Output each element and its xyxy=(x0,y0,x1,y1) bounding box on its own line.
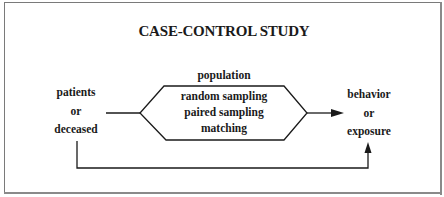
left-node-line-3: deceased xyxy=(54,124,97,136)
left-node-line-2: or xyxy=(71,106,82,118)
right-node-line-3: exposure xyxy=(347,126,391,138)
center-to-right-arrow xyxy=(307,109,344,117)
left-to-right-elbow-arrow xyxy=(77,141,372,168)
center-node-line-1: random sampling xyxy=(181,91,268,103)
right-node-line-2: or xyxy=(364,108,375,120)
right-node-line-1: behavior xyxy=(347,89,390,101)
arrowhead-up-icon xyxy=(365,142,372,153)
center-node-line-2: paired sampling xyxy=(184,107,263,119)
population-label: population xyxy=(197,70,250,82)
center-node-line-3: matching xyxy=(201,123,247,135)
arrowhead-right-icon xyxy=(331,109,344,117)
diagram-title: CASE-CONTROL STUDY xyxy=(138,24,309,39)
left-node-line-1: patients xyxy=(57,87,96,99)
